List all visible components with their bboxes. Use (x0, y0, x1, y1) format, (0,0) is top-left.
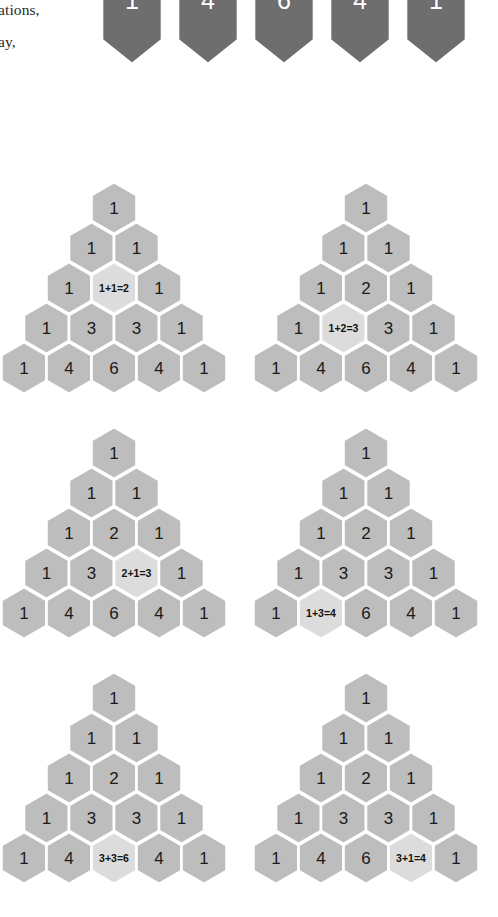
pascal-triangle-svg: 11111+1=21133114641 (0, 178, 240, 403)
hexagon-value-label: 3 (87, 319, 96, 338)
pascal-triangle-svg: 111121132+1=3114641 (0, 423, 240, 648)
hexagon-value-label: 1 (294, 319, 303, 338)
hexagon-cell: 1 (254, 587, 299, 639)
dark-hexagon-value: 4 (201, 0, 215, 14)
hexagon-value-label: 1 (361, 444, 370, 463)
hexagon-cell: 1 (182, 587, 227, 639)
hexagon-cell: 6 (92, 342, 137, 394)
hexagon-cell: 4 (137, 832, 182, 884)
hexagon-value-label: 1 (384, 239, 393, 258)
hexagon-value-label: 1 (339, 239, 348, 258)
hexagon-equation-label: 1+3=4 (306, 607, 336, 619)
hexagon-value-label: 2 (361, 279, 370, 298)
hexagon-cell: 1 (434, 342, 479, 394)
hexagon-value-label: 1 (109, 689, 118, 708)
hexagon-value-label: 4 (64, 604, 73, 623)
hexagon-cell: 6 (92, 587, 137, 639)
hexagon-value-label: 1 (429, 809, 438, 828)
hexagon-value-label: 1 (109, 199, 118, 218)
hexagon-value-label: 1 (132, 239, 141, 258)
hexagon-cell: 4 (47, 342, 92, 394)
hexagon-value-label: 1 (154, 524, 163, 543)
hexagon-value-label: 4 (64, 359, 73, 378)
hexagon-cell: 1 (254, 342, 299, 394)
hexagon-value-label: 1 (177, 809, 186, 828)
hexagon-value-label: 1 (361, 689, 370, 708)
hexagon-value-label: 3 (339, 564, 348, 583)
hexagon-value-label: 1 (316, 524, 325, 543)
pascal-triangle-svg: 11112111+2=33114641 (252, 178, 492, 403)
hexagon-value-label: 1 (19, 849, 28, 868)
hexagon-cell: 1 (434, 587, 479, 639)
hexagon-cell: 1 (182, 832, 227, 884)
hexagon-cell: 4 (47, 587, 92, 639)
hexagon-cell: 1 (434, 832, 479, 884)
hexagon-value-label: 4 (406, 604, 415, 623)
hexagon-value-label: 4 (64, 849, 73, 868)
hexagon-equation-label: 3+3=6 (99, 852, 129, 864)
hexagon-value-label: 6 (109, 359, 118, 378)
pascal-triangle-svg: 111121133111+3=4641 (252, 423, 492, 648)
hexagon-value-label: 1 (87, 729, 96, 748)
pascal-triangle-figure: 1111211331143+3=641 (0, 668, 240, 893)
hexagon-value-label: 1 (87, 239, 96, 258)
hexagon-value-label: 1 (339, 484, 348, 503)
hexagon-value-label: 1 (384, 729, 393, 748)
hexagon-value-label: 1 (451, 359, 460, 378)
hexagon-value-label: 1 (406, 524, 415, 543)
hexagon-value-label: 6 (109, 604, 118, 623)
hexagon-value-label: 1 (19, 359, 28, 378)
dark-hexagon-cell: 4 (178, 0, 238, 64)
hexagon-cell: 4 (47, 832, 92, 884)
hexagon-value-label: 3 (384, 809, 393, 828)
dark-hexagon-strip-svg: 14641 (99, 0, 469, 70)
hexagon-cell: 4 (137, 342, 182, 394)
hexagon-value-label: 1 (64, 279, 73, 298)
hexagon-cell: 1 (2, 832, 47, 884)
hexagon-value-label: 2 (361, 769, 370, 788)
dark-hexagon-value: 6 (277, 0, 291, 14)
hexagon-value-label: 2 (109, 769, 118, 788)
hexagon-value-label: 1 (271, 359, 280, 378)
hexagon-value-label: 1 (429, 319, 438, 338)
hexagon-value-label: 6 (361, 604, 370, 623)
hexagon-value-label: 3 (87, 809, 96, 828)
dark-hexagon-strip: 14641 (99, 0, 475, 64)
hexagon-value-label: 3 (87, 564, 96, 583)
hexagon-value-label: 1 (19, 604, 28, 623)
hexagon-value-label: 1 (316, 769, 325, 788)
hexagon-value-label: 2 (109, 524, 118, 543)
body-text-line-1: ations, (0, 1, 40, 19)
hexagon-value-label: 3 (339, 809, 348, 828)
pascal-triangle-figure: 111121132+1=3114641 (0, 423, 240, 648)
hexagon-value-label: 1 (42, 564, 51, 583)
hexagon-value-label: 2 (361, 524, 370, 543)
hexagon-value-label: 1 (64, 524, 73, 543)
hexagon-cell-highlighted: 3+1=4 (389, 832, 434, 884)
dark-hexagon-value: 1 (429, 0, 443, 14)
hexagon-value-label: 1 (316, 279, 325, 298)
hexagon-cell-highlighted: 1+3=4 (299, 587, 344, 639)
hexagon-equation-label: 3+1=4 (396, 852, 426, 864)
hexagon-equation-label: 1+1=2 (99, 282, 129, 294)
hexagon-value-label: 4 (316, 849, 325, 868)
hexagon-value-label: 1 (361, 199, 370, 218)
pascal-triangle-figure: 11111+1=21133114641 (0, 178, 240, 403)
hexagon-value-label: 4 (154, 604, 163, 623)
hexagon-cell: 6 (344, 587, 389, 639)
hexagon-value-label: 1 (109, 444, 118, 463)
hexagon-value-label: 1 (132, 484, 141, 503)
hexagon-cell: 4 (137, 587, 182, 639)
hexagon-value-label: 1 (154, 279, 163, 298)
hexagon-cell: 6 (344, 342, 389, 394)
pascal-triangle-figure: 11112113311463+1=41 (252, 668, 492, 893)
hexagon-value-label: 3 (384, 564, 393, 583)
hexagon-value-label: 1 (177, 319, 186, 338)
hexagon-equation-label: 2+1=3 (122, 567, 152, 579)
dark-hexagon-cell: 1 (102, 0, 162, 64)
pascal-triangle-figure: 11112111+2=33114641 (252, 178, 492, 403)
hexagon-value-label: 1 (451, 849, 460, 868)
hexagon-value-label: 1 (177, 564, 186, 583)
hexagon-cell: 1 (182, 342, 227, 394)
hexagon-cell: 4 (389, 587, 434, 639)
